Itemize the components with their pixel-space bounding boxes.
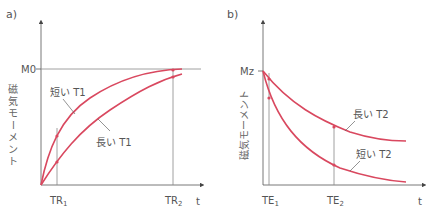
- short-t1-label: 短い T1: [50, 86, 86, 98]
- svg-text:ー: ー: [7, 120, 18, 130]
- diagram-canvas: a) M0 短い T1 長い T1 TR1 TR2 t 磁 気 モ ー: [0, 0, 430, 215]
- long-t2-curve: [263, 71, 406, 141]
- long-t2-label: 長い T2: [353, 109, 389, 120]
- panel-b-label: b): [227, 8, 238, 21]
- svg-text:モ: モ: [8, 108, 18, 119]
- x-tick-te1: TE1: [261, 195, 279, 208]
- panel-a: a) M0 短い T1 長い T1 TR1 TR2 t 磁 気 モ ー: [6, 8, 202, 208]
- y-axis-label: 磁気モーメント: [238, 90, 250, 160]
- short-t2-label: 短い T2: [356, 148, 392, 160]
- svg-text:磁: 磁: [8, 83, 18, 95]
- svg-text:メ: メ: [8, 132, 18, 143]
- y-tick-m0: M0: [21, 64, 36, 75]
- svg-text:気: 気: [8, 95, 18, 107]
- x-tick-tr2: TR2: [164, 195, 183, 208]
- panel-b: b) Mz 長い T2 短い T2 TE1 TE2 t 磁気モーメント: [227, 8, 424, 208]
- svg-text:ト: ト: [8, 156, 18, 167]
- y-axis-label: 磁 気 モ ー メ ン ト: [7, 83, 18, 167]
- x-axis-label: t: [196, 196, 200, 207]
- y-tick-mz: Mz: [240, 66, 254, 77]
- panel-a-label: a): [6, 8, 17, 21]
- x-axis-label: t: [418, 196, 422, 207]
- long-t1-label: 長い T1: [96, 137, 132, 148]
- x-tick-tr1: TR1: [49, 195, 68, 208]
- svg-text:ン: ン: [8, 144, 18, 155]
- x-tick-te2: TE2: [326, 195, 344, 208]
